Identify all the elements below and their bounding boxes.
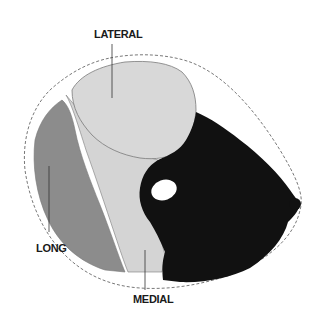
label-lateral: LATERAL (94, 28, 143, 40)
nerve-bump (289, 198, 301, 210)
muscle-cross-section-diagram: LATERAL LONG MEDIAL (0, 0, 323, 323)
label-long: LONG (36, 242, 67, 254)
label-medial: MEDIAL (133, 293, 174, 305)
